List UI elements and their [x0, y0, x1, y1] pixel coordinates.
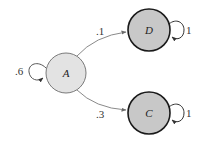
edge-label-a-d: .1 — [96, 25, 104, 37]
node-a-label: A — [62, 67, 70, 79]
self-loop-d-arrow — [169, 21, 184, 39]
self-loop-a-arrow — [29, 64, 46, 80]
self-loop-d: 1 — [169, 21, 192, 39]
edge-label-a-c: .3 — [96, 108, 105, 120]
edge-label-d-d: 1 — [186, 24, 192, 36]
edge-a-to-d: .1 — [77, 25, 126, 56]
node-d-label: D — [144, 24, 153, 36]
self-loop-c: 1 — [169, 104, 192, 122]
node-c-label: C — [145, 107, 153, 119]
edge-a-c-arrow — [77, 90, 126, 110]
edge-a-to-c: .3 — [77, 90, 126, 120]
self-loop-a: .6 — [15, 64, 46, 80]
edge-label-a-a: .6 — [15, 65, 24, 77]
node-a: A — [46, 53, 86, 93]
node-c: C — [128, 92, 170, 134]
node-d: D — [128, 9, 170, 51]
edge-label-c-c: 1 — [186, 107, 192, 119]
self-loop-c-arrow — [169, 104, 184, 122]
state-diagram: .1 .3 .6 1 1 A D C — [0, 0, 200, 143]
